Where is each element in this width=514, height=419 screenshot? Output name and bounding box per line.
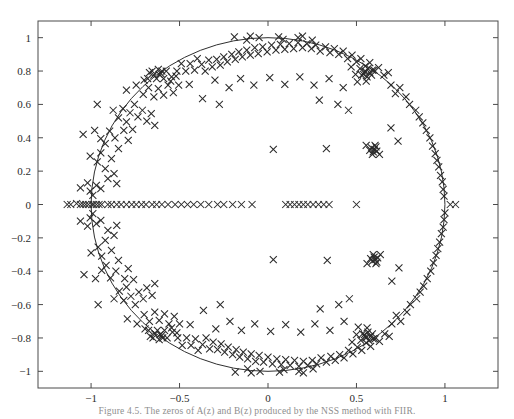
data-point — [186, 81, 193, 88]
data-point — [216, 101, 223, 108]
data-point — [214, 201, 221, 208]
data-point — [430, 259, 437, 266]
data-point — [184, 201, 191, 208]
data-point — [97, 217, 104, 224]
data-point — [158, 201, 165, 208]
y-tick-label: 0.8 — [17, 65, 31, 77]
data-point — [206, 345, 213, 352]
data-point — [160, 92, 167, 99]
data-point — [95, 244, 102, 251]
y-axis-tick-labels: 10.80.60.40.20−0.2−0.4−0.6−0.8−1 — [11, 32, 31, 378]
data-point — [311, 82, 318, 89]
data-point — [199, 95, 206, 102]
data-point — [317, 48, 324, 55]
data-point — [439, 178, 446, 185]
data-point — [155, 85, 162, 92]
data-point — [228, 51, 235, 58]
data-point — [134, 113, 141, 120]
data-point — [316, 97, 323, 104]
data-point — [173, 68, 180, 75]
data-point — [282, 356, 289, 363]
data-point — [270, 256, 277, 263]
data-point — [182, 68, 189, 75]
data-point — [183, 334, 190, 341]
data-point — [441, 193, 448, 200]
data-point — [87, 188, 94, 195]
data-point — [188, 342, 195, 349]
data-point — [140, 91, 147, 98]
x-tick-label: 0 — [265, 392, 271, 404]
data-point — [273, 355, 280, 362]
data-point — [104, 227, 111, 234]
data-point — [140, 295, 147, 302]
data-point — [348, 63, 355, 70]
y-tick-label: 0.2 — [17, 165, 31, 177]
data-point — [93, 220, 100, 227]
data-point — [67, 201, 74, 208]
data-point — [178, 60, 185, 67]
data-point — [388, 320, 395, 327]
y-tick-label: 0.4 — [17, 132, 31, 144]
data-point — [297, 329, 304, 336]
data-point — [318, 354, 325, 361]
data-point — [403, 309, 410, 316]
data-point — [264, 48, 271, 55]
data-point — [388, 278, 395, 285]
data-point — [129, 126, 136, 133]
data-point — [395, 264, 402, 271]
data-point — [226, 84, 233, 91]
data-point — [149, 292, 156, 299]
data-point — [104, 201, 111, 208]
data-point — [108, 155, 115, 162]
x-tick-label: −1 — [85, 392, 97, 404]
data-point — [226, 318, 233, 325]
data-point — [81, 271, 88, 278]
data-point — [221, 349, 228, 356]
x-tick-label: −0.5 — [170, 392, 190, 404]
x-axis-tick-labels: −1−0.500.51 — [85, 392, 447, 404]
data-point — [187, 60, 194, 67]
data-point — [311, 320, 318, 327]
data-point — [354, 78, 361, 85]
data-point — [64, 201, 71, 208]
data-point — [200, 307, 207, 314]
data-point — [191, 67, 198, 74]
data-point — [250, 82, 257, 89]
data-point — [369, 151, 376, 158]
data-point — [435, 163, 442, 170]
x-tick-label: 0.5 — [350, 392, 364, 404]
data-point — [209, 63, 216, 70]
data-point — [326, 75, 333, 82]
data-point — [377, 251, 384, 258]
data-point — [130, 276, 137, 283]
data-point — [165, 82, 172, 89]
data-point — [161, 310, 168, 317]
data-point — [192, 335, 199, 342]
y-tick-label: −1 — [19, 365, 31, 377]
data-point — [143, 118, 150, 125]
data-point — [353, 201, 360, 208]
scatter-plot: −1−0.500.51 10.80.60.40.20−0.2−0.4−0.6−0… — [0, 0, 514, 419]
data-point — [89, 192, 96, 199]
data-point — [203, 334, 210, 341]
data-point — [395, 138, 402, 145]
data-point — [120, 127, 127, 134]
figure-caption: Figure 4.5. The zeros of A(z) and B(z) p… — [0, 404, 514, 419]
data-point — [173, 73, 180, 80]
data-point — [190, 201, 197, 208]
data-point — [148, 110, 155, 117]
data-point — [376, 151, 383, 158]
data-point — [123, 118, 130, 125]
data-point — [281, 46, 288, 53]
data-point — [396, 84, 403, 91]
data-point — [229, 351, 236, 358]
data-point — [225, 344, 232, 351]
data-point — [165, 201, 172, 208]
data-point — [84, 223, 91, 230]
data-point — [106, 128, 113, 135]
data-point — [231, 33, 238, 40]
data-point — [111, 134, 118, 141]
data-point — [102, 237, 109, 244]
data-point — [220, 53, 227, 60]
data-point — [323, 359, 330, 366]
